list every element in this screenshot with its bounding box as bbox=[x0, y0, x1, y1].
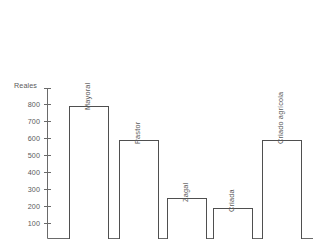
y-tick-label-300: 300 bbox=[14, 185, 40, 194]
y-tick-label-700: 700 bbox=[14, 117, 40, 126]
category-label-mayoral: Mayoral bbox=[83, 83, 92, 110]
y-tick-label-400: 400 bbox=[14, 168, 40, 177]
bar-mayoral[interactable] bbox=[69, 106, 109, 239]
y-tick-label-500: 500 bbox=[14, 151, 40, 160]
y-tick-label-100: 100 bbox=[14, 219, 40, 228]
y-axis-title: Reales bbox=[14, 81, 37, 90]
bar-chart: Reales 800 700 600 500 400 300 200 100 M… bbox=[0, 0, 318, 246]
bar-criada[interactable] bbox=[213, 208, 253, 239]
bar-zagal[interactable] bbox=[167, 198, 207, 239]
bar-criado-agricola[interactable] bbox=[262, 140, 302, 239]
y-tick-label-800: 800 bbox=[14, 100, 40, 109]
y-tick-label-600: 600 bbox=[14, 134, 40, 143]
category-label-pastor: Pastor bbox=[133, 121, 142, 143]
category-label-zagal: Zagal bbox=[181, 183, 190, 202]
category-label-criado-agricola: Criado agrícola bbox=[276, 91, 285, 143]
bar-pastor[interactable] bbox=[119, 140, 159, 239]
y-tick-label-200: 200 bbox=[14, 202, 40, 211]
category-label-criada: Criada bbox=[227, 190, 236, 213]
